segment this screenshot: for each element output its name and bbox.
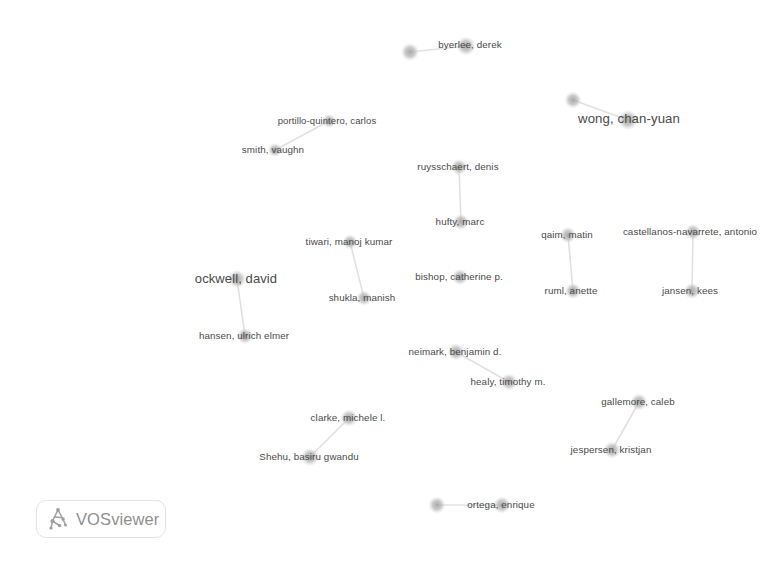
network-node[interactable]	[268, 143, 282, 157]
network-node[interactable]	[453, 214, 469, 230]
network-node[interactable]	[565, 283, 581, 299]
network-node[interactable]	[343, 235, 358, 250]
network-edge	[568, 235, 573, 291]
vosviewer-logo-icon	[47, 507, 69, 531]
network-node[interactable]	[631, 394, 648, 411]
vosviewer-map[interactable]: byerlee, derekwong, chan-yuanportillo-qu…	[0, 0, 779, 570]
network-node[interactable]	[501, 374, 518, 391]
network-node[interactable]	[457, 37, 476, 56]
network-node[interactable]	[604, 442, 621, 459]
network-edge	[456, 352, 509, 382]
network-node[interactable]	[429, 497, 446, 514]
network-node[interactable]	[301, 448, 319, 466]
network-edge	[350, 242, 364, 298]
network-node[interactable]	[685, 224, 701, 240]
network-node[interactable]	[237, 328, 253, 344]
network-edge	[459, 167, 461, 222]
network-node[interactable]	[618, 110, 638, 130]
network-node[interactable]	[684, 283, 700, 299]
vosviewer-logo[interactable]: VOSviewer	[36, 500, 166, 538]
network-node[interactable]	[565, 92, 582, 109]
network-canvas[interactable]	[0, 0, 779, 570]
network-node[interactable]	[494, 497, 511, 514]
network-node[interactable]	[448, 344, 465, 361]
network-node[interactable]	[357, 291, 372, 306]
network-node[interactable]	[452, 269, 468, 285]
network-node[interactable]	[560, 227, 576, 243]
network-node[interactable]	[228, 270, 246, 288]
network-edge	[275, 121, 329, 150]
network-edge	[692, 232, 693, 291]
network-node[interactable]	[401, 43, 419, 61]
network-node[interactable]	[451, 159, 467, 175]
vosviewer-logo-text: VOSviewer	[76, 510, 159, 529]
nodes-group[interactable]	[228, 37, 701, 514]
network-node[interactable]	[322, 114, 336, 128]
network-node[interactable]	[341, 410, 358, 427]
